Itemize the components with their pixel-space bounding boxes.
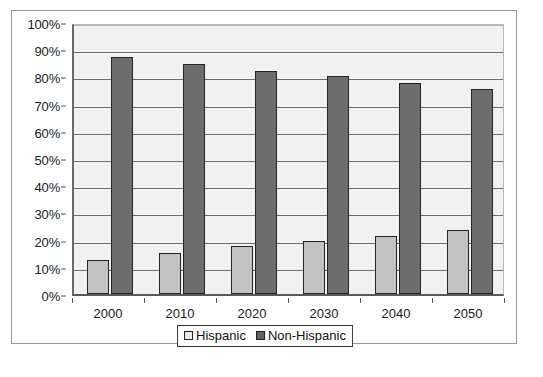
- x-axis-tick-label: 2000: [94, 306, 123, 321]
- chart-frame: 100%90%80%70%60%50%40%30%20%10%0% 200020…: [11, 10, 517, 344]
- bar-non-hispanic-2050: [471, 89, 493, 294]
- x-axis-tick-label: 2030: [310, 306, 339, 321]
- bar-group: [362, 25, 434, 294]
- bar-hispanic-2050: [447, 230, 469, 294]
- bar-hispanic-2020: [231, 246, 253, 294]
- bar-group: [434, 25, 504, 294]
- legend-swatch-icon: [184, 331, 193, 340]
- x-axis-tick-mark: [360, 298, 361, 303]
- bar-hispanic-2030: [303, 241, 325, 294]
- y-axis-tick-label: 100%: [28, 17, 60, 32]
- bar-non-hispanic-2010: [183, 64, 205, 294]
- x-axis-tick-mark: [432, 298, 433, 303]
- bar-hispanic-2040: [375, 236, 397, 294]
- legend-item-label: Hispanic: [196, 328, 246, 343]
- x-axis-tick-label: 2010: [166, 306, 195, 321]
- y-axis-tick-mark: [61, 51, 66, 52]
- y-axis-tick-mark: [61, 214, 66, 215]
- bar-hispanic-2000: [87, 260, 109, 294]
- y-axis-tick-label: 0%: [42, 289, 60, 304]
- x-axis-tick-mark: [216, 298, 217, 303]
- bar-non-hispanic-2020: [255, 71, 277, 294]
- x-axis-tick-mark: [288, 298, 289, 303]
- legend-swatch-icon: [256, 331, 265, 340]
- y-axis-tick-label: 30%: [35, 207, 60, 222]
- y-axis-tick-label: 40%: [35, 180, 60, 195]
- y-axis-tick-mark: [61, 78, 66, 79]
- legend-item-label: Non-Hispanic: [268, 328, 346, 343]
- x-axis-tick-mark: [72, 298, 73, 303]
- chart-plot-wrapper: 100%90%80%70%60%50%40%30%20%10%0% 200020…: [12, 11, 518, 345]
- x-axis-tick-mark: [504, 298, 505, 303]
- y-axis-tick-mark: [61, 296, 66, 297]
- bar-group: [146, 25, 218, 294]
- legend-item-hispanic[interactable]: Hispanic: [184, 328, 246, 343]
- x-axis-tick-label: 2050: [454, 306, 483, 321]
- bar-group: [290, 25, 362, 294]
- bar-non-hispanic-2030: [327, 76, 349, 294]
- plot-area: [72, 24, 504, 296]
- bar-non-hispanic-2000: [111, 57, 133, 294]
- x-axis: 200020102020203020402050: [72, 298, 504, 324]
- y-axis-tick-label: 50%: [35, 153, 60, 168]
- x-axis-tick-mark: [144, 298, 145, 303]
- bar-hispanic-2010: [159, 253, 181, 294]
- y-axis-tick-mark: [61, 160, 66, 161]
- chart-legend: HispanicNon-Hispanic: [177, 325, 353, 347]
- x-axis-tick-label: 2040: [382, 306, 411, 321]
- bar-group: [218, 25, 290, 294]
- y-axis-tick-mark: [61, 187, 66, 188]
- y-axis-tick-label: 80%: [35, 71, 60, 86]
- legend-item-nonhispanic[interactable]: Non-Hispanic: [256, 328, 346, 343]
- y-axis-tick-label: 90%: [35, 44, 60, 59]
- bars-layer: [74, 25, 503, 294]
- x-axis-tick-label: 2020: [238, 306, 267, 321]
- y-axis-tick-mark: [61, 132, 66, 133]
- y-axis-tick-mark: [61, 105, 66, 106]
- y-axis-tick-mark: [61, 268, 66, 269]
- y-axis: 100%90%80%70%60%50%40%30%20%10%0%: [12, 24, 66, 296]
- y-axis-tick-label: 20%: [35, 234, 60, 249]
- y-axis-tick-label: 70%: [35, 98, 60, 113]
- y-axis-tick-mark: [61, 241, 66, 242]
- bar-group: [74, 25, 146, 294]
- y-axis-tick-label: 60%: [35, 125, 60, 140]
- bar-non-hispanic-2040: [399, 83, 421, 294]
- y-axis-tick-mark: [61, 24, 66, 25]
- y-axis-tick-label: 10%: [35, 261, 60, 276]
